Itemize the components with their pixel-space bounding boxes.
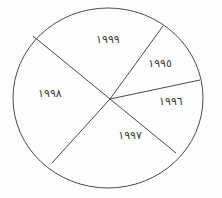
pie-chart-figure: ١٩٩٩ ١٩٩٥ ١٩٩٦ ١٩٩٧ ١٩٩٨ [0,0,222,198]
pie-divider-right [110,80,200,99]
pie-divider-lower-left [52,99,110,163]
pie-chart-svg [0,0,222,198]
pie-slice-label-1999: ١٩٩٩ [96,33,120,46]
pie-slice-label-1997: ١٩٩٧ [118,129,142,142]
pie-slice-label-1996: ١٩٩٦ [159,94,183,107]
pie-slice-label-1995: ١٩٩٥ [148,56,172,69]
pie-slice-label-1998: ١٩٩٨ [38,87,62,100]
